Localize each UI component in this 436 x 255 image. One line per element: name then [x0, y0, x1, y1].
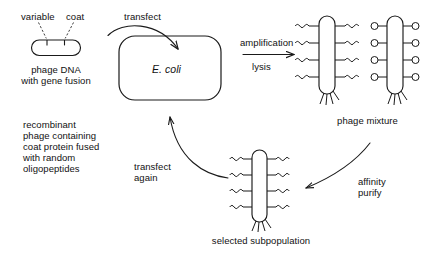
- label-recombinant-line3: coat protein fused: [23, 141, 99, 152]
- label-phage-dna-line2: with gene fusion: [0, 75, 112, 86]
- label-lysis: lysis: [252, 61, 271, 72]
- label-transfect-again-line2: again: [134, 172, 158, 183]
- label-affinity-line1: affinity: [358, 176, 386, 187]
- label-transfect: transfect: [124, 11, 161, 22]
- label-ecoli: E. coli: [152, 64, 181, 75]
- phage-particle-circles-b: [371, 16, 419, 105]
- label-recombinant-line2: phage containing: [23, 130, 96, 141]
- label-coat: coat: [66, 11, 84, 22]
- phage-particle-selected: [230, 150, 290, 232]
- label-variable: variable: [21, 11, 55, 22]
- phage-display-diagram: variable coat phage DNA with gene fusion…: [0, 0, 436, 255]
- label-amplification: amplification: [240, 37, 293, 48]
- label-phage-dna-line1: phage DNA: [6, 64, 106, 75]
- phage-particle-squiggle-a: [295, 16, 359, 105]
- label-selected-subpopulation: selected subpopulation: [196, 235, 326, 246]
- label-affinity-line2: purify: [358, 187, 382, 198]
- transfect-arrow: [108, 26, 178, 49]
- label-recombinant-line1: recombinant: [23, 119, 76, 130]
- label-phage-mixture: phage mixture: [315, 115, 420, 126]
- transfect-again-arrow: [170, 117, 228, 178]
- plasmid-leader-lines: [39, 23, 74, 39]
- label-recombinant-line5: oligopeptides: [23, 163, 80, 174]
- plasmid-shape: [32, 40, 81, 56]
- label-recombinant-line4: with random: [23, 152, 75, 163]
- label-transfect-again-line1: transfect: [134, 161, 171, 172]
